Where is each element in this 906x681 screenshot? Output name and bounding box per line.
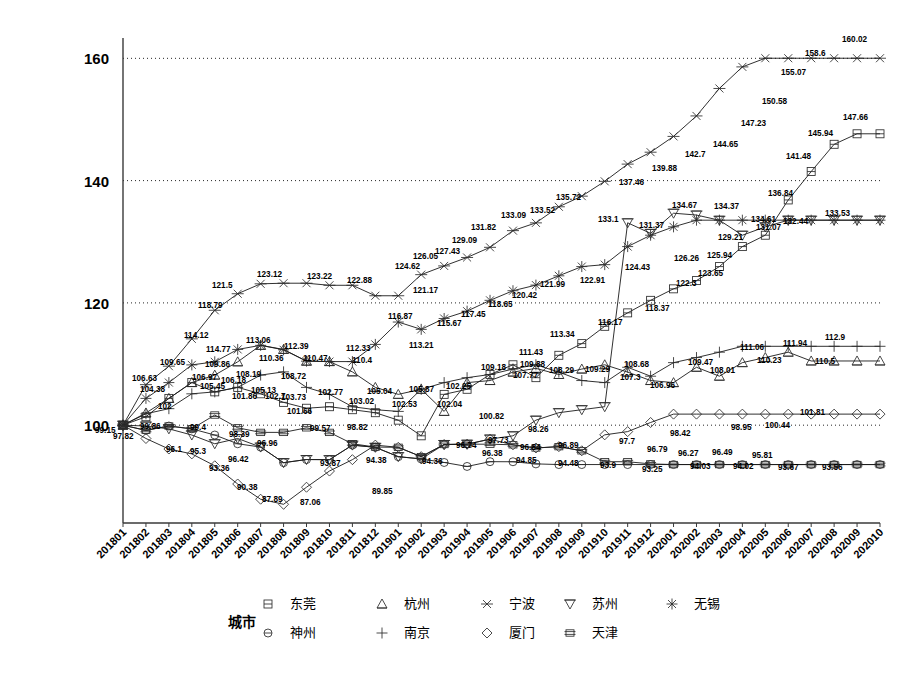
data-value-label: 104.38 xyxy=(140,385,165,394)
data-value-label: 101.66 xyxy=(287,407,312,416)
data-value-label: 98.26 xyxy=(528,425,549,434)
data-value-label: 121.17 xyxy=(413,286,438,295)
data-value-label: 147.23 xyxy=(741,119,766,128)
data-value-label: 108.72 xyxy=(281,372,306,381)
data-value-label: 125.94 xyxy=(707,251,732,260)
data-value-label: 102.25 xyxy=(446,382,471,391)
data-value-label: 108.68 xyxy=(624,360,649,369)
data-value-label: 103.02 xyxy=(349,397,374,406)
data-value-label: 96.74 xyxy=(456,441,477,450)
data-value-label: 133.09 xyxy=(501,211,526,220)
data-value-label: 96.79 xyxy=(647,445,668,454)
data-value-label: 98.39 xyxy=(229,430,250,439)
legend-item-label: 杭州 xyxy=(404,596,430,611)
data-value-label: 102.04 xyxy=(437,400,462,409)
data-value-label: 131.07 xyxy=(756,223,781,232)
data-value-label: 89.85 xyxy=(372,487,393,496)
data-value-label: 145.94 xyxy=(808,129,833,138)
data-value-label: 150.58 xyxy=(762,97,787,106)
data-value-label: 93.25 xyxy=(642,465,663,474)
legend-item-label: 神州 xyxy=(290,625,316,640)
data-value-label: 93.87 xyxy=(320,459,341,468)
data-value-label: 121.99 xyxy=(540,280,565,289)
data-value-label: 122.88 xyxy=(347,276,372,285)
data-value-label: 93.36 xyxy=(209,464,230,473)
data-value-label: 126.05 xyxy=(413,252,438,261)
data-value-label: 94.48 xyxy=(558,459,579,468)
data-value-label: 160.02 xyxy=(842,35,867,44)
data-value-label: 87.06 xyxy=(300,498,321,507)
data-value-label: 123.22 xyxy=(307,272,332,281)
data-value-label: 136.84 xyxy=(768,189,793,198)
data-value-label: 158.6 xyxy=(805,49,826,58)
data-value-label: 105.87 xyxy=(409,385,434,394)
data-value-label: 142.7 xyxy=(685,150,706,159)
data-value-label: 117.45 xyxy=(461,310,486,319)
data-value-label: 133.53 xyxy=(825,209,850,218)
data-value-label: 96.96 xyxy=(257,439,278,448)
data-value-label: 97.82 xyxy=(113,432,134,441)
data-value-label: 98.95 xyxy=(731,423,752,432)
data-value-label: 93.67 xyxy=(778,463,799,472)
data-value-label: 133.1 xyxy=(598,215,619,224)
data-value-label: 97.7 xyxy=(619,437,635,446)
data-value-label: 98.82 xyxy=(347,423,368,432)
legend-item-label: 苏州 xyxy=(592,596,618,611)
data-value-label: 127.43 xyxy=(435,247,460,256)
data-value-label: 95.81 xyxy=(752,451,773,460)
data-value-label: 103.73 xyxy=(281,393,306,402)
data-value-label: 94.38 xyxy=(366,456,387,465)
data-value-label: 107.77 xyxy=(513,371,538,380)
data-value-label: 122.3 xyxy=(676,279,697,288)
data-value-label: 131.37 xyxy=(639,221,664,230)
legend-title: 城市 xyxy=(228,614,256,630)
data-value-label: 109.29 xyxy=(585,365,610,374)
data-value-label: 98.42 xyxy=(670,429,691,438)
legend-item-label: 无锡 xyxy=(694,596,720,611)
data-value-label: 134.67 xyxy=(672,201,697,210)
data-value-label: 109.18 xyxy=(481,363,506,372)
legend-item-label: 厦门 xyxy=(509,625,535,640)
data-value-label: 99.86 xyxy=(140,422,161,431)
data-value-label: 108.29 xyxy=(549,366,574,375)
data-value-label: 106.96 xyxy=(650,381,675,390)
data-value-label: 118.37 xyxy=(645,304,670,313)
data-value-label: 99.4 xyxy=(190,423,206,432)
data-value-label: 118.79 xyxy=(198,301,223,310)
data-value-label: 111.94 xyxy=(783,339,808,348)
data-value-label: 118.65 xyxy=(488,300,513,309)
data-value-label: 102.77 xyxy=(318,388,343,397)
y-tick-label: 120 xyxy=(84,295,109,312)
data-value-label: 116.17 xyxy=(598,318,623,327)
data-value-label: 129.09 xyxy=(452,236,477,245)
data-value-label: 101.86 xyxy=(232,392,257,401)
data-value-label: 95.3 xyxy=(190,447,206,456)
data-value-label: 90.38 xyxy=(237,483,258,492)
data-value-label: 108.01 xyxy=(710,366,735,375)
data-value-label: 96.27 xyxy=(678,449,699,458)
data-value-label: 131.82 xyxy=(471,223,496,232)
data-value-label: 100.44 xyxy=(765,421,790,430)
data-value-label: 112.33 xyxy=(346,344,371,353)
legend-item-label: 宁波 xyxy=(509,596,535,611)
data-value-label: 139.88 xyxy=(652,164,677,173)
data-value-label: 123.65 xyxy=(698,269,723,278)
data-value-label: 124.62 xyxy=(395,262,420,271)
data-value-label: 96.89 xyxy=(558,441,579,450)
data-value-label: 99.57 xyxy=(310,424,331,433)
data-value-label: 110.23 xyxy=(757,356,782,365)
data-value-label: 96.42 xyxy=(228,455,249,464)
data-value-label: 93.56 xyxy=(822,463,843,472)
data-value-label: 110.4 xyxy=(352,356,372,365)
data-value-label: 96.1 xyxy=(166,445,182,454)
data-value-label: 114.12 xyxy=(184,331,209,340)
data-value-label: 105.45 xyxy=(200,382,225,391)
data-value-label: 114.77 xyxy=(206,345,231,354)
data-value-label: 96.84 xyxy=(520,443,541,452)
data-value-label: 106.97 xyxy=(192,373,217,382)
data-value-label: 124.43 xyxy=(625,263,650,272)
data-value-label: 105.04 xyxy=(367,387,392,396)
data-value-label: 123.12 xyxy=(257,270,282,279)
data-value-label: 147.66 xyxy=(843,113,868,122)
data-value-label: 111.06 xyxy=(740,343,765,352)
